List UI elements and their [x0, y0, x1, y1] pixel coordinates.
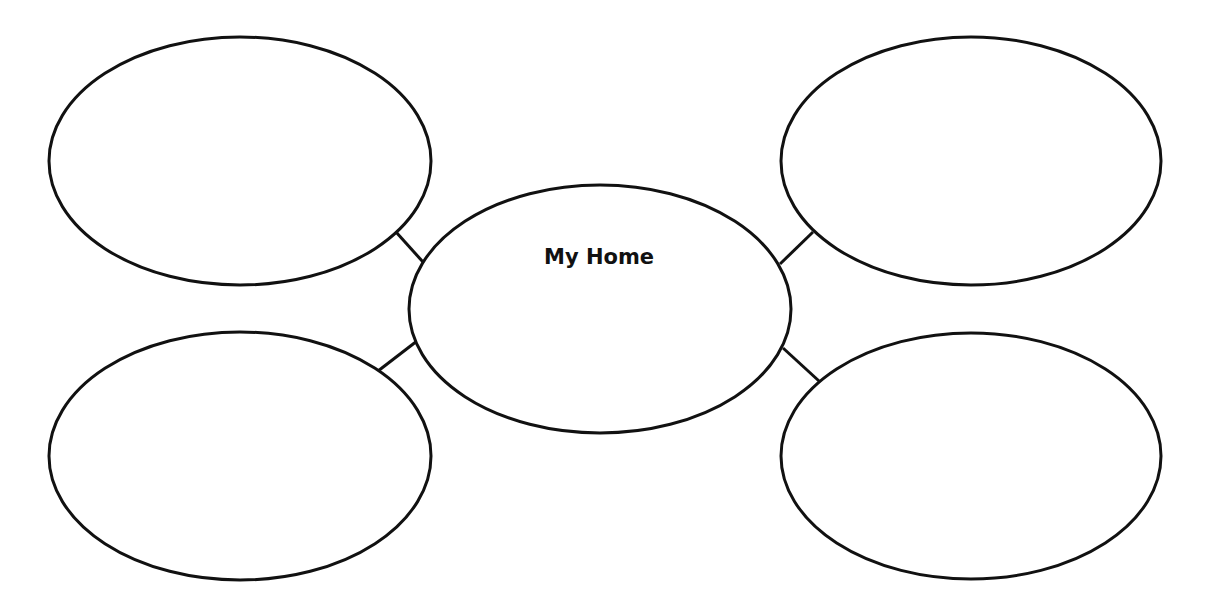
connector-top-left	[396, 232, 423, 262]
connector-bottom-right	[783, 348, 819, 381]
connector-top-right	[780, 232, 813, 264]
bubble-bottom-left[interactable]	[49, 332, 431, 580]
connector-bottom-left	[378, 341, 417, 371]
bubble-top-right[interactable]	[781, 37, 1161, 285]
bubble-top-left[interactable]	[49, 37, 431, 285]
bubble-map-canvas	[0, 0, 1208, 616]
bubble-bottom-right[interactable]	[781, 333, 1161, 579]
center-bubble-label: My Home	[544, 245, 654, 269]
center-bubble[interactable]	[409, 185, 791, 433]
